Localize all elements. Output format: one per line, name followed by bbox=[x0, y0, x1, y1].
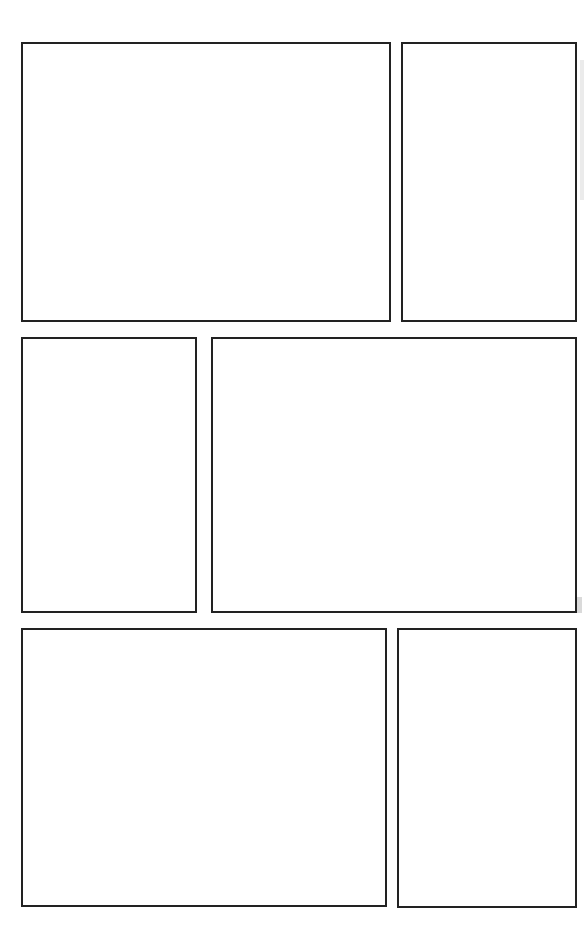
comic-panel-1[interactable] bbox=[21, 42, 391, 322]
comic-panel-3[interactable] bbox=[21, 337, 197, 613]
scan-smudge-right-edge bbox=[580, 60, 584, 200]
comic-page bbox=[0, 0, 584, 941]
scan-smudge-right-margin bbox=[577, 597, 582, 613]
comic-panel-5[interactable] bbox=[21, 628, 387, 907]
comic-panel-2[interactable] bbox=[401, 42, 577, 322]
comic-panel-4[interactable] bbox=[211, 337, 577, 613]
comic-panel-6[interactable] bbox=[397, 628, 577, 908]
